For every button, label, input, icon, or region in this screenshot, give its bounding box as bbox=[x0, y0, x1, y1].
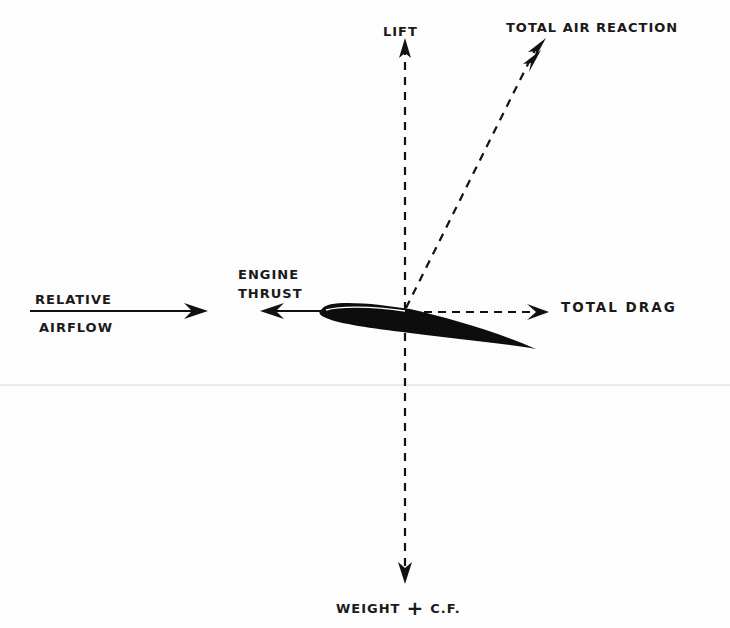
force-diagram: LIFT TOTAL AIR REACTION ENGINE THRUST RE… bbox=[0, 0, 730, 628]
relative-airflow-label-line2: AIRFLOW bbox=[39, 320, 113, 335]
weight-cf-label: WEIGHT+C.F. bbox=[336, 594, 461, 618]
cf-label: C.F. bbox=[430, 601, 460, 616]
engine-thrust-label-line2: THRUST bbox=[238, 286, 303, 301]
plus-sign: + bbox=[406, 596, 424, 620]
total-drag-label: TOTAL DRAG bbox=[561, 299, 677, 315]
weight-arrow bbox=[398, 318, 412, 584]
total-drag-arrowhead-icon bbox=[527, 304, 549, 320]
aerofoil bbox=[319, 303, 536, 349]
lift-arrow bbox=[399, 38, 411, 310]
relative-airflow-label-line1: RELATIVE bbox=[35, 292, 112, 307]
total-air-reaction-label: TOTAL AIR REACTION bbox=[506, 20, 678, 35]
engine-thrust-arrow bbox=[260, 303, 322, 319]
total-air-reaction-arrow bbox=[406, 38, 546, 308]
engine-thrust-label-line1: ENGINE bbox=[238, 267, 299, 282]
total-air-reaction-arrowhead-icon bbox=[523, 50, 541, 72]
weight-label: WEIGHT bbox=[336, 601, 400, 616]
lift-label: LIFT bbox=[383, 24, 418, 39]
